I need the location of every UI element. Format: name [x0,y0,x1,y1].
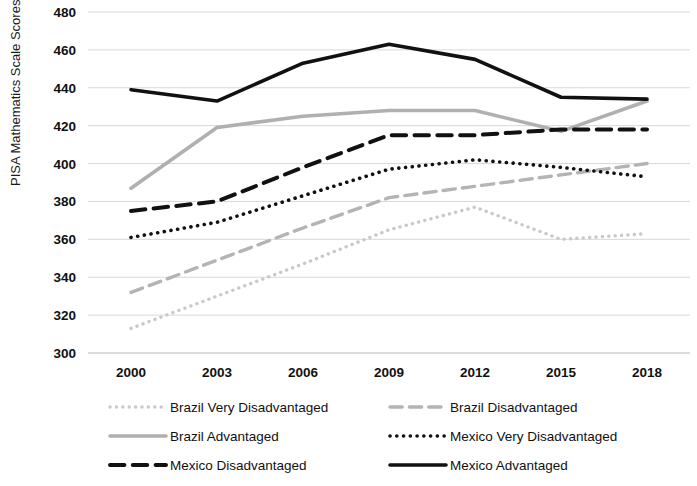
pisa-mathematics-line-chart: 300320340360380400420440460480 200020032… [0,0,697,486]
legend-label: Mexico Advantaged [450,458,568,473]
legend-label: Brazil Advantaged [170,429,279,444]
y-tick-label: 400 [53,157,76,172]
y-tick-label: 480 [53,5,76,20]
chart-background [0,0,697,486]
legend-label: Brazil Very Disadvantaged [170,400,328,415]
y-tick-label: 420 [53,119,76,134]
x-tick-label: 2006 [288,365,319,380]
x-tick-label: 2015 [546,365,577,380]
x-tick-label: 2012 [460,365,490,380]
x-tick-label: 2009 [374,365,404,380]
legend-label: Mexico Disadvantaged [170,458,307,473]
legend-label: Mexico Very Disadvantaged [450,429,617,444]
legend-label: Brazil Disadvantaged [450,400,578,415]
x-tick-label: 2003 [202,365,233,380]
x-tick-label: 2018 [632,365,663,380]
y-tick-label: 380 [53,194,76,209]
y-tick-label: 360 [53,232,76,247]
y-axis-title: PISA Mathematics Scale Scores [8,0,23,186]
y-tick-label: 440 [53,81,76,96]
y-tick-label: 300 [53,346,76,361]
y-tick-label: 320 [53,308,76,323]
y-tick-label: 460 [53,43,76,58]
x-tick-label: 2000 [116,365,146,380]
y-tick-label: 340 [53,270,76,285]
